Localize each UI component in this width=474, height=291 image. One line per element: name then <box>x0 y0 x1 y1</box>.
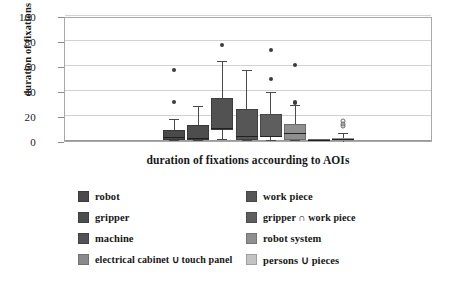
outlier-point <box>293 63 297 67</box>
legend-item[interactable]: electrical cabinet ∪ touch panel <box>78 254 246 265</box>
legend-label: gripper <box>95 212 130 223</box>
legend-label: gripper ∩ work piece <box>263 212 356 223</box>
whisker-upper <box>174 120 175 130</box>
legend-item[interactable]: persons ∪ pieces <box>246 254 418 266</box>
box-iqr <box>163 130 185 141</box>
whisker-upper <box>295 106 296 124</box>
legend-item[interactable]: gripper <box>78 212 246 223</box>
median-line <box>163 137 185 138</box>
legend-label: electrical cabinet ∪ touch panel <box>95 254 232 265</box>
whisker-upper <box>222 62 223 98</box>
legend-label: robot <box>95 191 120 202</box>
chart-legend: robotwork piecegrippergripper ∩ work pie… <box>78 186 418 270</box>
legend-swatch-icon <box>246 233 257 244</box>
boxplot-gripper <box>187 16 209 141</box>
legend-item[interactable]: gripper ∩ work piece <box>246 212 418 223</box>
y-tick-label: 40 <box>0 87 36 98</box>
outlier-point <box>220 43 224 47</box>
y-tick-mark <box>58 142 64 143</box>
y-tick-label: 100 <box>0 12 36 23</box>
outlier-point <box>172 100 176 104</box>
y-tick-label: 20 <box>0 112 36 123</box>
y-tick-label: 60 <box>0 62 36 73</box>
boxplot-work-piece <box>236 16 258 141</box>
legend-label: work piece <box>263 191 313 202</box>
outlier-point <box>293 100 297 104</box>
y-tick-label: 0 <box>0 137 36 148</box>
whisker-cap-upper <box>193 106 203 107</box>
whisker-cap-lower <box>266 140 276 141</box>
median-line <box>332 139 354 140</box>
whisker-cap-upper <box>169 119 179 120</box>
whisker-cap-upper <box>217 61 227 62</box>
boxplot-robot <box>163 16 185 141</box>
median-line <box>260 136 282 137</box>
whisker-upper <box>270 93 271 114</box>
box-iqr <box>260 114 282 137</box>
outlier-point <box>269 77 273 81</box>
whisker-upper <box>246 71 247 109</box>
whisker-cap-upper <box>242 70 252 71</box>
outlier-point <box>341 119 346 124</box>
legend-label: machine <box>95 233 134 244</box>
plot-area <box>64 17 432 142</box>
whisker-cap-upper <box>266 92 276 93</box>
legend-swatch-icon <box>78 233 89 244</box>
boxplot-electrical-cabinet-touch-panel <box>308 16 330 141</box>
legend-label: robot system <box>263 233 321 244</box>
boxplot-persons-pieces <box>332 16 354 141</box>
median-line <box>187 138 209 139</box>
median-line <box>284 133 306 134</box>
legend-item[interactable]: robot <box>78 191 246 202</box>
box-iqr <box>211 98 233 130</box>
boxplot-figure: duration of fixations [%] 020406080100 d… <box>0 0 474 291</box>
legend-swatch-icon <box>246 212 257 223</box>
legend-item[interactable]: robot system <box>246 233 418 244</box>
outlier-point <box>172 68 176 72</box>
outlier-point <box>269 48 273 52</box>
legend-swatch-icon <box>78 212 89 223</box>
boxplot-gripper-work-piece <box>260 16 282 141</box>
median-line <box>211 128 233 129</box>
whisker-cap-upper <box>338 133 348 134</box>
legend-item[interactable]: work piece <box>246 191 418 202</box>
whisker-cap-lower <box>217 139 227 140</box>
boxplot-robot-system <box>284 16 306 141</box>
y-tick-label: 80 <box>0 37 36 48</box>
boxplot-machine <box>211 16 233 141</box>
legend-swatch-icon <box>78 191 89 202</box>
legend-swatch-icon <box>78 254 89 265</box>
whisker-cap-upper <box>290 105 300 106</box>
x-axis-label: duration of fixations accourding to AOIs <box>64 154 432 166</box>
legend-item[interactable]: machine <box>78 233 246 244</box>
legend-swatch-icon <box>246 254 257 265</box>
whisker-upper <box>198 107 199 125</box>
legend-swatch-icon <box>246 191 257 202</box>
median-line <box>236 136 258 137</box>
legend-label: persons ∪ pieces <box>263 254 339 266</box>
median-line <box>308 140 330 141</box>
